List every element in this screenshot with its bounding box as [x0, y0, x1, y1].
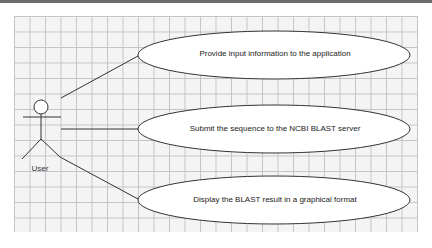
actor-right-leg [41, 139, 60, 157]
association-line-1 [61, 56, 138, 98]
actor-user-figure [22, 100, 61, 159]
associations [60, 56, 138, 199]
actor-label: User [32, 164, 49, 173]
use-case-label-1: Provide input information to the applica… [199, 49, 350, 58]
use-case-label-3: Display the BLAST result in a graphical … [193, 195, 356, 204]
use-case-label-2: Submit the sequence to the NCBI BLAST se… [190, 124, 361, 133]
actor-left-leg [22, 139, 41, 159]
association-line-3 [60, 157, 138, 199]
actor-head [34, 100, 48, 114]
